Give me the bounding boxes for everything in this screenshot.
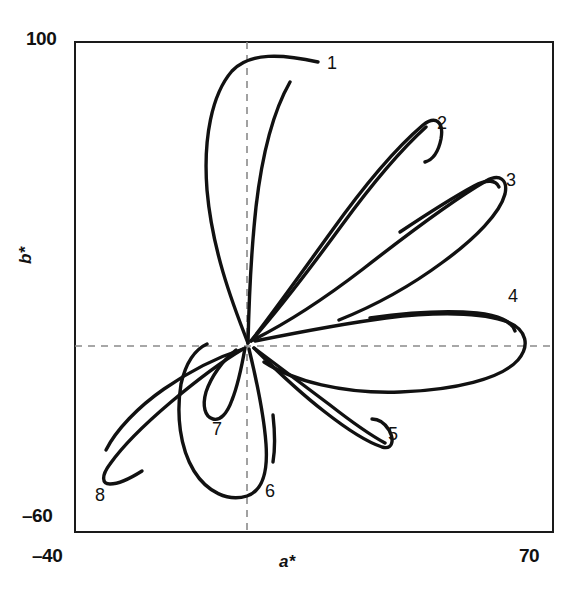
chart-figure: 100 –60 –40 70 a* b* 12345678 (0, 0, 588, 597)
curve-label-8: 8 (95, 485, 105, 506)
curve-label-3: 3 (506, 170, 516, 191)
y-axis-title: b* (16, 247, 36, 264)
curve-label-5: 5 (388, 424, 398, 445)
curve-label-4: 4 (508, 286, 518, 307)
y-axis-max-tick-label: 100 (26, 28, 56, 50)
plot-frame (74, 41, 554, 533)
curve-label-1: 1 (327, 53, 337, 74)
curve-label-2: 2 (437, 113, 447, 134)
curve-label-6: 6 (265, 481, 275, 502)
curve-label-7: 7 (212, 419, 222, 440)
x-axis-max-tick-label: 70 (519, 545, 539, 567)
x-axis-title: a* (279, 552, 295, 572)
x-axis-min-tick-label: –40 (32, 545, 62, 567)
y-axis-min-tick-label: –60 (22, 505, 52, 527)
